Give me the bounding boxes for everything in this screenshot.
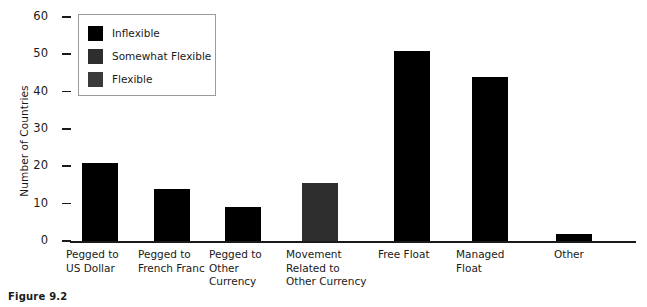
legend-label: Flexible xyxy=(112,73,152,85)
bar xyxy=(154,189,190,241)
figure-container: Number of Countries 0102030405060 Pegged… xyxy=(0,0,647,307)
chart-plot-area: Number of Countries 0102030405060 Pegged… xyxy=(0,0,647,307)
bar xyxy=(472,77,508,241)
x-axis-category-label: Pegged to Other Currency xyxy=(209,248,262,289)
legend-swatch xyxy=(88,49,103,64)
x-axis-category-label: Managed Float xyxy=(456,248,504,275)
figure-caption: Figure 9.2 xyxy=(8,291,67,302)
bar xyxy=(394,51,430,241)
legend-entry: Somewhat Flexible xyxy=(88,46,211,66)
x-axis-category-label: Pegged to US Dollar xyxy=(66,248,119,275)
bar xyxy=(82,163,118,241)
x-axis-category-label: Other xyxy=(554,248,584,262)
legend-entry: Inflexible xyxy=(88,23,160,43)
bar xyxy=(556,234,592,241)
bar xyxy=(225,207,261,241)
bar xyxy=(302,183,338,241)
legend-swatch xyxy=(88,72,103,87)
legend-swatch xyxy=(88,26,103,41)
x-axis-category-label: Pegged to French Franc xyxy=(138,248,205,275)
legend-label: Somewhat Flexible xyxy=(112,50,211,62)
x-axis-category-label: Free Float xyxy=(378,248,430,262)
chart-legend: InflexibleSomewhat FlexibleFlexible xyxy=(78,14,216,96)
x-axis-line xyxy=(70,241,636,243)
legend-entry: Flexible xyxy=(88,69,152,89)
x-axis-category-label: Movement Related to Other Currency xyxy=(286,248,366,289)
legend-label: Inflexible xyxy=(112,27,160,39)
